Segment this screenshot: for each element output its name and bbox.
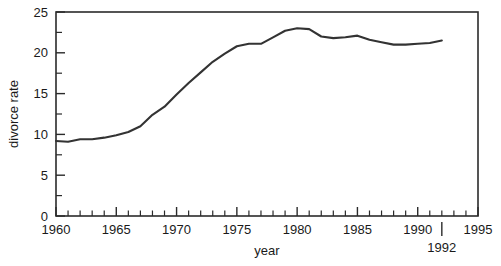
x-tick-label-1995: 1995 [464,222,493,237]
x-tick-label-1990: 1990 [403,222,432,237]
y-axis-title: divorce rate [6,80,21,148]
x-tick-label-1980: 1980 [283,222,312,237]
y-tick-label-25: 25 [34,5,48,20]
x-axis-minor-ticks [68,211,466,217]
y-axis-tick-labels: 0510152025 [34,5,48,224]
x-tick-label-1960: 1960 [42,222,71,237]
x-axis-tick-labels: 19601965197019751980198519901995 [42,222,493,237]
divorce-rate-line-chart: 0510152025 19601965197019751980198519901… [0,0,501,266]
y-tick-label-10: 10 [34,127,48,142]
x-axis-title: year [254,243,280,258]
y-tick-label-15: 15 [34,86,48,101]
y-tick-label-20: 20 [34,45,48,60]
annotation-label: 1992 [427,240,456,255]
x-axis-major-ticks [56,207,478,216]
x-tick-label-1975: 1975 [222,222,251,237]
y-axis-minor-ticks [56,32,62,195]
plot-frame [56,12,478,216]
y-tick-label-5: 5 [41,168,48,183]
chart-figure: 0510152025 19601965197019751980198519901… [0,0,501,266]
x-tick-label-1970: 1970 [162,222,191,237]
x-tick-label-1965: 1965 [102,222,131,237]
x-tick-label-1985: 1985 [343,222,372,237]
series-line-divorce-rate [56,28,442,141]
